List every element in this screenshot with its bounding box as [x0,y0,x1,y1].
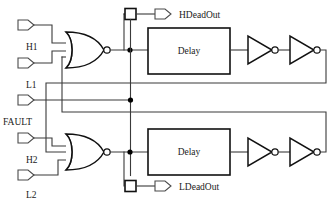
nor-gate-top[interactable] [66,32,110,68]
junction-nor-bottom-out [127,149,132,154]
input-terminal-fault[interactable] [18,95,131,105]
input-label-l2: L2 [26,190,37,200]
input-terminal-h2[interactable] [18,133,72,146]
inverter-bottom-2[interactable] [290,138,320,166]
output-terminal-ldeadout[interactable] [155,181,171,191]
input-label-l1: L1 [26,80,37,90]
nor-gate-bottom[interactable] [66,134,110,170]
delay-block-top-label: Delay [178,46,201,56]
input-terminal-l1[interactable] [18,51,72,68]
delay-block-bottom-label: Delay [178,147,201,157]
inverter-top-1[interactable] [248,36,278,64]
output-label-hdeadout: HDeadOut [179,10,221,20]
input-label-h2: H2 [26,155,38,165]
input-label-fault: FAULT [3,117,32,127]
delay-block-bottom[interactable]: Delay [148,129,230,175]
circuit-diagram-canvas: H1 L1 HDeadOut Delay [0,0,333,201]
test-point-hdeadout[interactable] [125,9,155,27]
delay-block-top[interactable]: Delay [148,28,230,74]
input-terminal-h1[interactable] [18,20,72,43]
output-label-ldeadout: LDeadOut [179,182,219,192]
inverter-top-2[interactable] [290,36,320,64]
output-terminal-hdeadout[interactable] [155,9,171,19]
inverter-bottom-1[interactable] [248,138,278,166]
input-label-h1: H1 [26,42,38,52]
junction-fault-branch [128,97,133,102]
test-point-ldeadout[interactable] [125,181,155,192]
